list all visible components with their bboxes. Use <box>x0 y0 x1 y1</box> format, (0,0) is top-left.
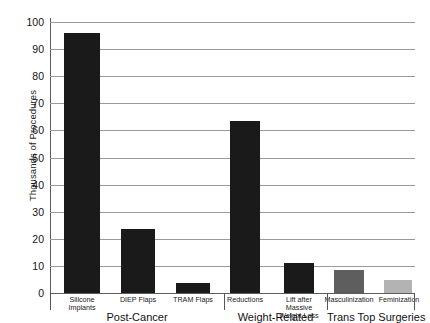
bar-label-line: Masculinization <box>324 295 373 304</box>
group-boundary-2 <box>327 293 328 310</box>
y-tick-10: 10 <box>4 260 44 272</box>
gridline-100 <box>50 22 415 23</box>
bar-label-line: DIEP Flaps <box>120 295 156 304</box>
gridline-90 <box>50 49 415 50</box>
bar-label-tram-flaps: TRAM Flaps <box>163 296 223 304</box>
bar-label-line: Reductions <box>227 295 263 304</box>
bar-tram-flaps <box>176 283 210 292</box>
bar-feminization <box>384 280 412 292</box>
bar-silicone-implants <box>64 33 100 293</box>
bar-label-feminization: Feminization <box>370 296 428 304</box>
group-title-post-cancer: Post-Cancer <box>50 311 224 323</box>
y-tick-40: 40 <box>4 179 44 191</box>
y-tick-100: 100 <box>4 16 44 28</box>
bar-masculinization <box>334 270 364 293</box>
group-title-weight-related: Weight-Related <box>224 311 327 323</box>
y-tick-50: 50 <box>4 152 44 164</box>
bar-labels-band: Silicone Implants DIEP Flaps TRAM Flaps … <box>50 294 415 310</box>
y-tick-0: 0 <box>4 287 44 299</box>
y-tick-30: 30 <box>4 206 44 218</box>
bar-label-line: TRAM Flaps <box>173 295 213 304</box>
y-tick-60: 60 <box>4 124 44 136</box>
group-boundary-right <box>414 293 415 310</box>
y-tick-70: 70 <box>4 97 44 109</box>
y-tick-90: 90 <box>4 43 44 55</box>
group-boundary-1 <box>224 293 225 310</box>
bar-diep-flaps <box>121 229 155 293</box>
group-title-trans-top-surgeries: Trans Top Surgeries <box>327 311 414 323</box>
bar-label-silicone-implants: Silicone Implants <box>52 296 112 312</box>
y-tick-80: 80 <box>4 70 44 82</box>
plot-area <box>50 22 415 293</box>
bar-reductions <box>230 121 260 293</box>
bar-label-diep-flaps: DIEP Flaps <box>108 296 168 304</box>
bar-lift-after-massive-weight-loss <box>284 263 314 293</box>
y-tick-20: 20 <box>4 233 44 245</box>
gridline-80 <box>50 76 415 77</box>
group-boundary-left <box>50 293 51 310</box>
gridline-70 <box>50 103 415 104</box>
